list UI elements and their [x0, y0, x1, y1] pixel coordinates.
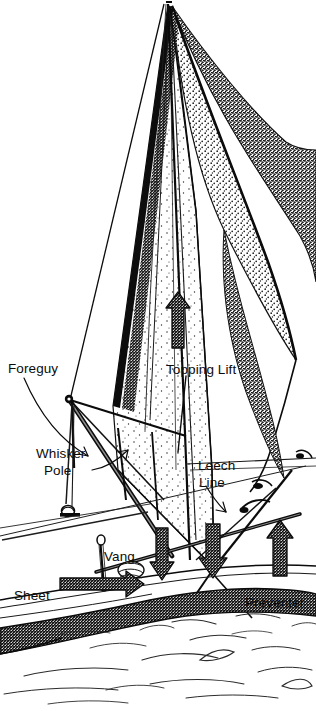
label-vang: Vang [104, 549, 135, 564]
sailing-rig-diagram: Foreguy Whisker Pole Topping Lift Leech … [0, 0, 316, 711]
label-leech-line-line1: Leech [198, 458, 235, 473]
label-sheet: Sheet [14, 588, 50, 603]
label-foreguy: Foreguy [8, 361, 58, 376]
label-whisker-pole-line1: Whisker [36, 446, 85, 461]
label-topping-lift: Topping Lift [166, 362, 236, 377]
label-whisker-pole-line2: Pole [44, 463, 71, 478]
label-leech-line-line2: Line [199, 475, 225, 490]
label-preventer: Preventer [245, 595, 304, 610]
